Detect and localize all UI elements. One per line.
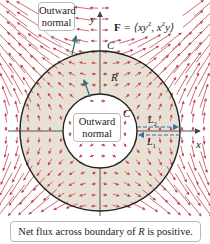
- outer-normal-vector: [72, 36, 76, 55]
- caption-prefix: Net flux across boundary of: [18, 226, 138, 237]
- field-formula: F = ⟨xy2, x2y⟩: [114, 21, 174, 33]
- region-label: R: [111, 72, 118, 83]
- caption-box: Net flux across boundary of R is positiv…: [10, 221, 201, 242]
- outer-normal-callout-line1: Outward: [39, 5, 74, 17]
- outer-normal-callout: Outward normal: [38, 2, 75, 31]
- caption-suffix: is positive.: [145, 226, 193, 237]
- x-axis-label: x: [196, 139, 201, 150]
- y-axis-label: y: [90, 14, 95, 25]
- segment-l1-label: L1: [147, 137, 156, 150]
- inner-normal-callout-line2: normal: [74, 128, 120, 140]
- segment-l2-label: L2: [148, 115, 157, 128]
- inner-normal-callout-line1: Outward: [74, 116, 120, 128]
- inner-curve-label: C: [123, 108, 130, 119]
- field-symbol: F: [114, 21, 121, 33]
- outer-normal-callout-line2: normal: [39, 17, 74, 29]
- outer-curve-label: C: [107, 40, 114, 51]
- inner-normal-callout: Outward normal: [73, 113, 121, 142]
